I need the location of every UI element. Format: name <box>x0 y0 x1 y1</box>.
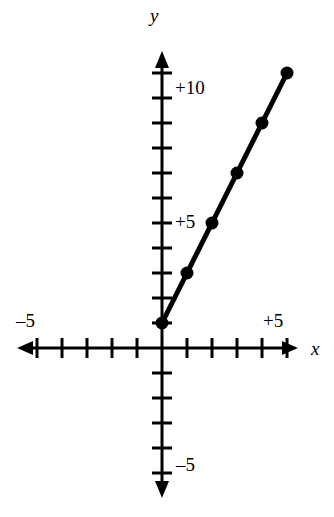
x-axis <box>17 338 298 358</box>
series-polyline <box>162 73 287 323</box>
plot-area <box>0 0 334 517</box>
y-axis-label: y <box>150 6 158 25</box>
y-tick-label-10: +10 <box>175 78 205 97</box>
x-axis-left-arrowhead <box>17 341 33 355</box>
x-axis-label: x <box>311 339 319 358</box>
x-tick-label-pos5: +5 <box>263 311 283 330</box>
coordinate-graph-figure: y x +10 +5 –5 –5 +5 <box>0 0 334 517</box>
data-point <box>281 67 294 80</box>
y-tick-label-5: +5 <box>175 212 195 231</box>
data-point <box>256 117 269 130</box>
data-point <box>156 317 169 330</box>
y-axis <box>152 51 172 498</box>
data-point <box>206 217 219 230</box>
data-series-line <box>156 67 294 330</box>
data-point <box>231 167 244 180</box>
y-axis-bottom-arrowhead <box>155 481 169 498</box>
y-axis-top-arrowhead <box>155 51 169 68</box>
y-tick-label-neg5: –5 <box>176 455 195 474</box>
x-tick-label-neg5: –5 <box>16 311 35 330</box>
data-point <box>181 267 194 280</box>
x-axis-right-arrowhead <box>282 341 298 355</box>
